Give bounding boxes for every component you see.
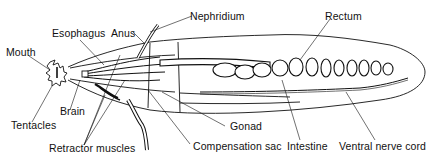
label-anus: Anus (111, 28, 135, 39)
label-nephridium: Nephridium (190, 11, 245, 22)
label-tentacles: Tentacles (11, 120, 56, 131)
label-retractor-muscles: Retractor muscles (49, 143, 135, 154)
ventral-nerve-cord-line (200, 78, 408, 92)
label-mouth: Mouth (6, 47, 36, 58)
label-brain: Brain (60, 106, 85, 117)
label-rectum: Rectum (325, 11, 362, 22)
label-intestine: Intestine (287, 141, 328, 152)
label-ventral-nerve-cord: Ventral nerve cord (339, 141, 426, 152)
label-gonad: Gonad (230, 121, 262, 132)
label-esophagus: Esophagus (52, 28, 105, 39)
label-compensation-sac: Compensation sac (193, 141, 282, 152)
